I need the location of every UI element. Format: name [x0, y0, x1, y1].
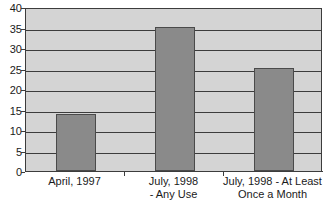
y-tick-label: 25 [2, 64, 22, 75]
x-axis-category-label-line1: July, 1998 [149, 175, 198, 187]
x-axis-line [25, 171, 323, 172]
y-axis-tick [21, 70, 25, 71]
bar [56, 114, 96, 171]
bars [26, 9, 321, 171]
x-axis-category-label: July, 1998 - At LeastOnce a Month [213, 175, 331, 201]
bar [155, 27, 195, 171]
x-axis-category-label-line2: Once a Month [213, 188, 331, 201]
y-axis-labels: 0510152025303540 [0, 8, 22, 172]
y-axis-tick [21, 29, 25, 30]
bar [254, 68, 294, 171]
y-axis-tick [21, 8, 25, 9]
y-tick-label: 40 [2, 3, 22, 14]
y-tick-label: 15 [2, 105, 22, 116]
y-tick-label: 35 [2, 23, 22, 34]
y-axis-tick [21, 152, 25, 153]
x-axis-category-label-line1: April, 1997 [48, 175, 101, 187]
x-axis-labels: April, 1997July, 1998- Any UseJuly, 1998… [25, 175, 322, 206]
y-axis-tick [21, 131, 25, 132]
y-axis-tick [21, 172, 25, 173]
y-axis-tick [21, 90, 25, 91]
x-axis-category-label-line1: July, 1998 - At Least [223, 175, 322, 187]
y-tick-label: 10 [2, 126, 22, 137]
y-axis-tick [21, 49, 25, 50]
y-tick-label: 30 [2, 44, 22, 55]
y-axis-tick [21, 111, 25, 112]
y-tick-label: 5 [2, 146, 22, 157]
y-tick-label: 20 [2, 85, 22, 96]
bar-chart: 0510152025303540 April, 1997July, 1998- … [0, 0, 331, 206]
plot-area [25, 8, 322, 172]
